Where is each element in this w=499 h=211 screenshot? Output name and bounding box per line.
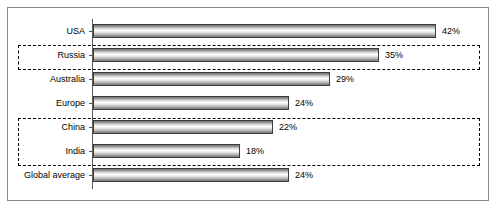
value-label-russia: 35%	[379, 43, 403, 67]
axis-tick	[89, 175, 92, 176]
axis-tick	[89, 127, 92, 128]
value-label-usa: 42%	[436, 19, 460, 43]
category-label-china: China	[61, 115, 91, 139]
category-label-usa: USA	[66, 19, 91, 43]
value-label-australia: 29%	[330, 67, 354, 91]
axis-tick	[89, 79, 92, 80]
bar-europe[interactable]	[93, 96, 289, 110]
category-label-russia: Russia	[57, 43, 91, 67]
axis-tick	[89, 151, 92, 152]
category-label-india: India	[65, 139, 91, 163]
category-label-europe: Europe	[56, 91, 91, 115]
bar-usa[interactable]	[93, 24, 436, 38]
bar-row: Australia 29%	[8, 67, 490, 91]
bar-row: India 18%	[8, 139, 490, 163]
bar-row: Global average 24%	[8, 163, 490, 187]
value-label-europe: 24%	[289, 91, 313, 115]
value-label-china: 22%	[273, 115, 297, 139]
axis-tick	[89, 55, 92, 56]
bar-china[interactable]	[93, 120, 273, 134]
axis-tick	[89, 31, 92, 32]
category-label-global-average: Global average	[24, 163, 91, 187]
bar-chart-plot-area: USA 42% Russia 35% Australia 29% Europe …	[8, 8, 490, 202]
bar-row: China 22%	[8, 115, 490, 139]
bar-india[interactable]	[93, 144, 240, 158]
value-label-india: 18%	[240, 139, 264, 163]
bar-global-average[interactable]	[93, 168, 289, 182]
category-label-australia: Australia	[50, 67, 91, 91]
bar-russia[interactable]	[93, 48, 379, 62]
axis-tick	[89, 103, 92, 104]
bar-row: Russia 35%	[8, 43, 490, 67]
chart-frame: USA 42% Russia 35% Australia 29% Europe …	[7, 7, 489, 201]
value-label-global-average: 24%	[289, 163, 313, 187]
bar-australia[interactable]	[93, 72, 330, 86]
bar-row: USA 42%	[8, 19, 490, 43]
bar-row: Europe 24%	[8, 91, 490, 115]
